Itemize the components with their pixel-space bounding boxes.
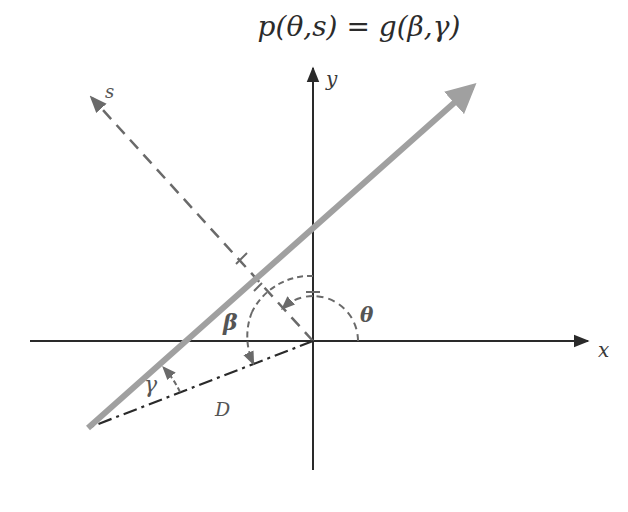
- s-axis-dashed: [92, 98, 313, 341]
- source-distance-line: [88, 341, 313, 428]
- x-axis-label: x: [598, 338, 609, 362]
- projection-geometry-diagram: x y s θ β γ D: [0, 0, 628, 512]
- distance-label: D: [214, 398, 230, 420]
- gamma-label: γ: [144, 372, 158, 397]
- gamma-arc: [164, 368, 180, 392]
- theta-arc: [283, 296, 358, 341]
- beta-label: β: [222, 309, 238, 335]
- theta-label: θ: [360, 303, 374, 327]
- y-axis-label: y: [325, 67, 338, 91]
- s-axis-label: s: [105, 81, 114, 102]
